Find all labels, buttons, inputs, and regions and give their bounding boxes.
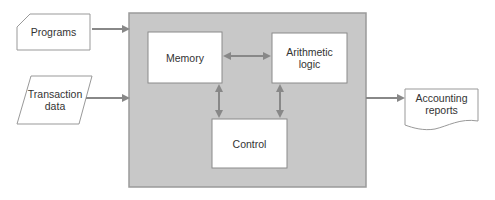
transaction-data-text: Transaction data (28, 88, 82, 112)
transaction-data-label: Transaction data (22, 76, 88, 124)
control-text: Control (233, 138, 267, 150)
arithmetic-logic-label: Arithmetic logic (272, 33, 347, 83)
accounting-reports-text: Accounting reports (416, 92, 468, 116)
memory-text: Memory (166, 52, 204, 64)
programs-text: Programs (31, 26, 77, 38)
programs-label: Programs (17, 14, 90, 50)
arithmetic-logic-text: Arithmetic logic (286, 46, 333, 70)
accounting-reports-label: Accounting reports (405, 89, 478, 119)
memory-label: Memory (148, 32, 222, 83)
computer-system-diagram: Programs Transaction data Memory Arithme… (0, 0, 495, 200)
control-label: Control (212, 119, 287, 168)
